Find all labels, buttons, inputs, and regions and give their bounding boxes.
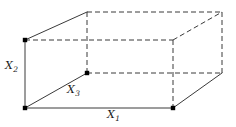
vertex-dot-front-bottom-right (171, 106, 175, 110)
vertex-dot-back-bottom-left (85, 71, 89, 75)
solid-edges-group (25, 12, 222, 108)
right-depth-diagonal-edge (173, 73, 222, 108)
edge-label-x1: X1 (107, 109, 120, 120)
top-left-depth-diagonal-edge (25, 12, 87, 40)
box-diagram-svg (0, 0, 236, 127)
edge-label-x2: X2 (5, 60, 18, 71)
edge-label-x2-base: X (5, 59, 13, 72)
edge-label-x3-subscript: 3 (75, 89, 80, 98)
vertex-dot-front-bottom-left (23, 106, 27, 110)
edge-label-x3-base: X (67, 83, 75, 96)
vertex-dots-group (23, 38, 175, 110)
edge-label-x3: X3 (67, 84, 80, 95)
edge-label-x2-subscript: 2 (13, 65, 18, 74)
edge-label-x1-subscript: 1 (115, 114, 120, 123)
vertex-dot-front-top-left (23, 38, 27, 42)
top-right-depth-diagonal-edge (173, 12, 222, 40)
edge-label-x1-base: X (107, 108, 115, 121)
box-diagram-figure: X2 X3 X1 (0, 0, 236, 127)
